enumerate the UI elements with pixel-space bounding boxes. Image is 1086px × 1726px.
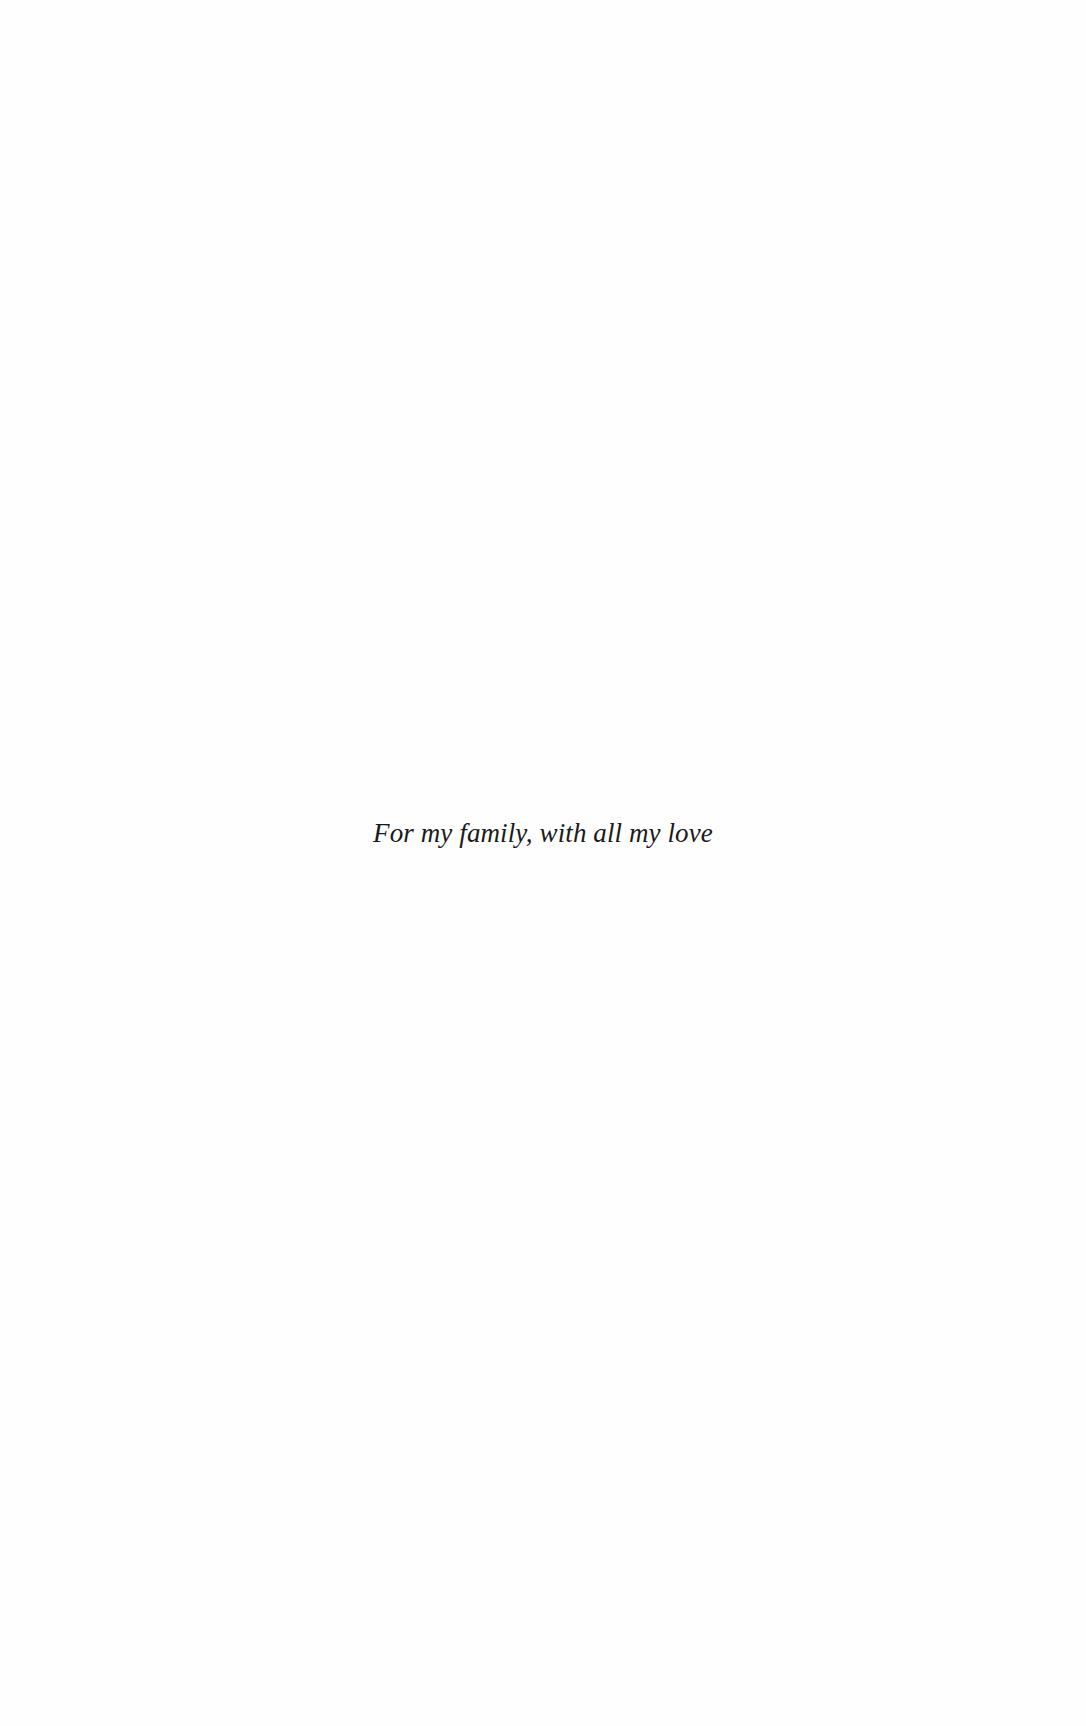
- book-page: For my family, with all my love: [0, 0, 1086, 1726]
- dedication-text: For my family, with all my love: [0, 816, 1086, 850]
